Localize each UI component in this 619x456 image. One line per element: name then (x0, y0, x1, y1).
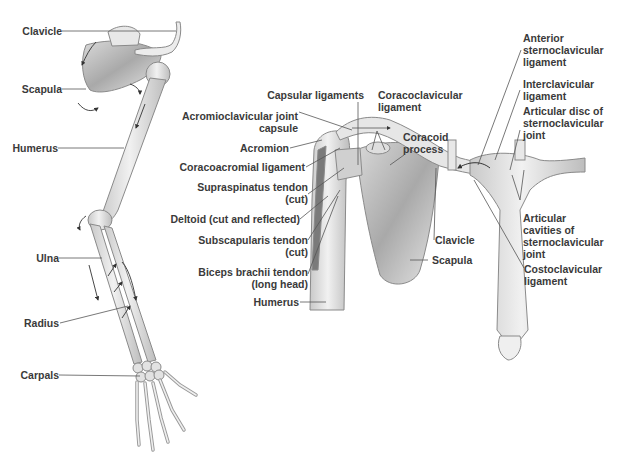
label-subscapularis-tendon: Subscapularis tendon (cut) (180, 234, 308, 258)
label-articular-cavities: Articular cavities of sternoclavicular j… (523, 212, 618, 260)
label-clavicle-right: Clavicle (435, 234, 495, 246)
label-humerus-right: Humerus (240, 296, 299, 308)
xiphoid-process (498, 336, 521, 360)
label-scapula: Scapula (14, 83, 62, 95)
label-capsular-ligaments: Capsular ligaments (260, 89, 364, 101)
label-humerus: Humerus (6, 142, 58, 154)
label-supraspinatus-tendon: Supraspinatus tendon (cut) (180, 181, 308, 205)
left-upper-limb (78, 22, 196, 450)
label-clavicle: Clavicle (14, 25, 62, 37)
label-coracoacromial-ligament: Coracoacromial ligament (170, 161, 305, 173)
label-ulna: Ulna (14, 252, 59, 264)
label-biceps-brachii-tendon: Biceps brachii tendon (long head) (180, 266, 308, 290)
label-radius: Radius (14, 317, 59, 329)
label-coracoid-process: Coracoid process (403, 131, 463, 155)
label-acromion: Acromion (230, 142, 289, 154)
label-acromioclavicular-joint-capsule: Acromioclavicular joint capsule (170, 110, 298, 134)
label-coracoclavicular-ligament: Coracoclavicular ligament (378, 89, 478, 113)
label-interclavicular-ligament: Interclavicular ligament (523, 78, 618, 102)
label-deltoid: Deltoid (cut and reflected) (150, 213, 300, 225)
humerus-bone (100, 78, 166, 222)
label-anterior-sternoclavicular-ligament: Anterior sternoclavicular ligament (523, 32, 618, 68)
label-carpals: Carpals (10, 369, 59, 381)
label-costoclavicular-ligament: Costoclavicular ligament (524, 263, 619, 287)
label-scapula-right: Scapula (432, 254, 492, 266)
coracoid-process-bone (366, 142, 390, 154)
label-articular-disc: Articular disc of sternoclavicular joint (523, 105, 618, 141)
clavicle-bone (135, 22, 181, 56)
scapula-right-bone (356, 143, 440, 285)
